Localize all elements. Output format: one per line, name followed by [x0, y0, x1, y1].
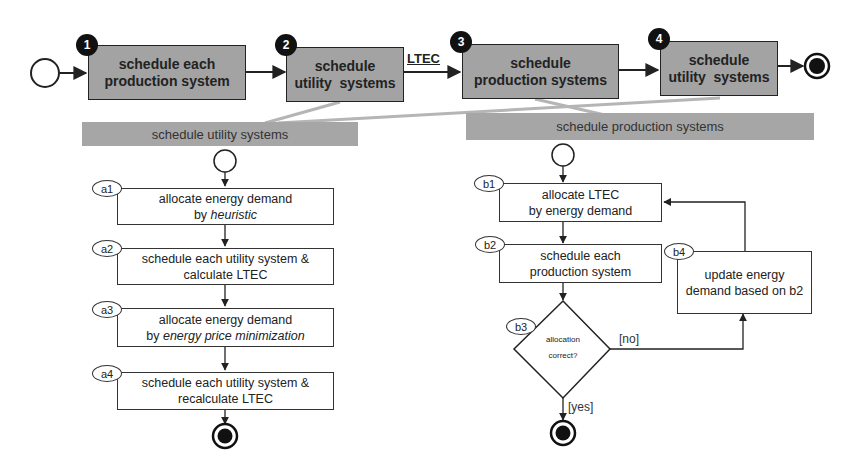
step-text-line2: by energy demand: [529, 203, 633, 219]
final-node-main: [805, 54, 829, 78]
activity-b1: allocate LTEC by energy demand: [499, 183, 662, 222]
activity-label-line2: utility systems: [668, 69, 769, 86]
production-panel-header: schedule production systems: [466, 113, 814, 140]
activity-label-line1: schedule: [474, 55, 607, 72]
activity-a2: schedule each utility system & calculate…: [117, 248, 334, 285]
step-tag-a3: a3: [92, 301, 122, 318]
step-text-line2: calculate LTEC: [184, 267, 268, 283]
step-tag-b4: b4: [664, 243, 694, 260]
decision-text-b3: allocation correct?: [523, 332, 603, 364]
activity-label-line1: schedule: [668, 52, 769, 69]
activity-label-line2: production system: [104, 73, 229, 90]
step-tag-a1: a1: [92, 180, 122, 197]
step-tag-a4: a4: [92, 365, 122, 382]
step-text-line2: by energy price minimization: [146, 328, 304, 344]
step-text-line1: schedule each utility system &: [142, 375, 309, 391]
step-badge-1: 1: [76, 34, 98, 56]
activity-schedule-each-production-system: schedule eachproduction system: [88, 45, 246, 100]
step-badge-4: 4: [648, 28, 670, 50]
activity-a3: allocate energy demand by energy price m…: [117, 308, 334, 347]
step-text-line2: production system: [530, 264, 631, 280]
decision-text-line2: correct?: [523, 348, 603, 364]
activity-schedule-production-systems: scheduleproduction systems: [462, 44, 619, 99]
step-text-line1: schedule each: [540, 248, 621, 264]
step-text-line2: demand based on b2: [686, 283, 803, 299]
guard-no: [no]: [619, 332, 639, 346]
activity-a4: schedule each utility system & recalcula…: [117, 372, 334, 410]
step-text-line1: allocate energy demand: [159, 191, 292, 207]
activity-label-line1: schedule each: [104, 56, 229, 73]
activity-a1: allocate energy demand by heuristic: [117, 188, 334, 225]
guard-yes: [yes]: [568, 400, 593, 414]
production-final-node: [551, 421, 575, 445]
step-tag-b1: b1: [474, 175, 504, 192]
activity-b2: schedule each production system: [499, 244, 662, 283]
step-text-line1: update energy: [705, 267, 785, 283]
initial-node: [31, 59, 59, 87]
step-tag-b3: b3: [506, 318, 536, 335]
activity-schedule-utility-systems-1: scheduleutility systems: [286, 47, 404, 102]
step-text-line2: recalculate LTEC: [178, 391, 273, 407]
activity-label-line2: utility systems: [294, 75, 395, 92]
step-text-line1: allocate LTEC: [542, 187, 620, 203]
activity-b4: update energy demand based on b2: [677, 251, 812, 314]
decision-text-line1: allocation: [523, 332, 603, 348]
activity-label-line1: schedule: [294, 58, 395, 75]
step-badge-3: 3: [450, 31, 472, 53]
step-text-line1: allocate energy demand: [159, 312, 292, 328]
production-initial-node: [552, 144, 574, 166]
activity-schedule-utility-systems-2: scheduleutility systems: [660, 41, 778, 96]
utility-final-node: [213, 424, 237, 448]
step-text-line1: schedule each utility system &: [142, 251, 309, 267]
step-tag-b2: b2: [475, 236, 505, 253]
step-badge-2: 2: [275, 34, 297, 56]
utility-panel-header: schedule utility systems: [82, 122, 358, 146]
activity-label-line2: production systems: [474, 72, 607, 89]
edge-label-ltec: LTEC: [407, 51, 440, 66]
utility-initial-node: [214, 150, 236, 172]
step-text-line2: by heuristic: [194, 207, 257, 223]
step-tag-a2: a2: [92, 240, 122, 257]
